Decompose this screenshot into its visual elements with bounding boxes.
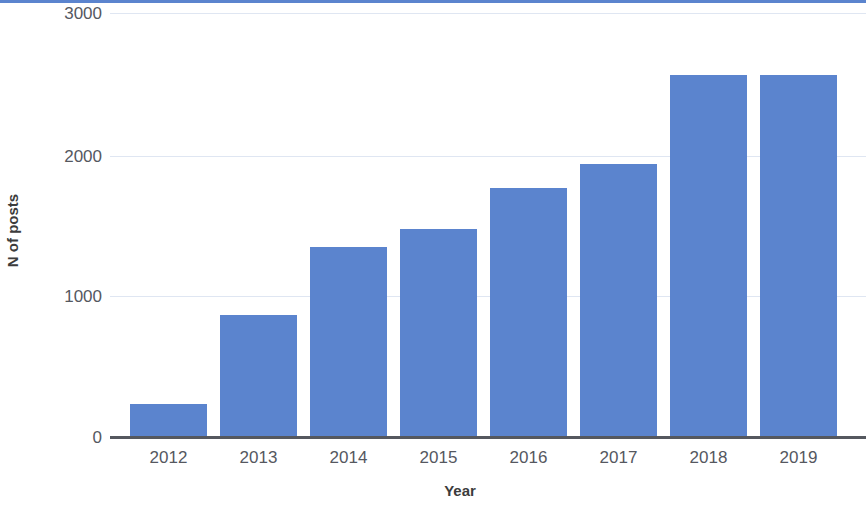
x-axis-title: Year [0, 482, 866, 499]
x-tick-label-2019: 2019 [760, 448, 837, 468]
x-tick-label-2014: 2014 [310, 448, 387, 468]
bar-chart: N of posts 3000 2000 1000 0 2012 2013 20… [0, 0, 866, 3]
y-axis-tick-labels: 3000 2000 1000 0 [26, 0, 102, 440]
y-axis-title: N of posts [0, 160, 26, 300]
bar-2018 [670, 75, 747, 436]
y-tick-label-2000: 2000 [32, 148, 102, 165]
x-tick-label-2018: 2018 [670, 448, 747, 468]
plot-area: 2012 2013 2014 2015 2016 2017 2018 2019 [110, 0, 866, 440]
bar-2012 [130, 404, 207, 436]
bar-2015 [400, 229, 477, 436]
x-axis-title-text: Year [444, 482, 476, 499]
gridline-1000 [110, 296, 866, 297]
gridline-3000 [110, 13, 866, 14]
y-axis-title-text: N of posts [5, 193, 22, 266]
bar-2016 [490, 188, 567, 436]
x-tick-label-2015: 2015 [400, 448, 477, 468]
x-tick-label-2012: 2012 [130, 448, 207, 468]
y-tick-label-3000: 3000 [32, 5, 102, 22]
x-axis-baseline [110, 436, 866, 439]
y-tick-label-1000: 1000 [32, 288, 102, 305]
bar-2019 [760, 75, 837, 436]
x-tick-label-2016: 2016 [490, 448, 567, 468]
bar-2013 [220, 315, 297, 436]
x-tick-label-2017: 2017 [580, 448, 657, 468]
bar-2017 [580, 164, 657, 436]
y-tick-label-0: 0 [32, 429, 102, 446]
gridline-2000 [110, 156, 866, 157]
x-tick-label-2013: 2013 [220, 448, 297, 468]
bar-2014 [310, 247, 387, 436]
